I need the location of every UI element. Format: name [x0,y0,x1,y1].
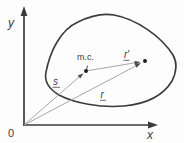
vector-s-line [24,77,79,125]
origin-label: 0 [8,127,14,139]
body-outline [46,14,176,106]
vector-r-label: r [101,89,105,100]
y-axis-arrowhead-icon [21,6,28,16]
mechanics-diagram: y x 0 m.c. s r r′ [0,0,184,143]
x-axis-label: x [146,128,154,142]
vector-s-label: s [53,76,58,87]
particle-point [143,59,147,63]
diagram-canvas: y x 0 m.c. s r r′ [0,0,184,143]
mass-center-point [84,69,88,73]
y-axis-label: y [7,16,15,30]
vector-r-prime-label: r′ [124,49,130,60]
mass-center-label: m.c. [77,52,94,62]
